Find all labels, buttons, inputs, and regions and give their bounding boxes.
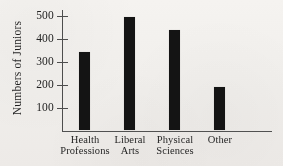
bar-other [214,87,225,131]
y-axis-line [62,10,63,131]
bar-chart-screenshot: Numbers of Juniors 500 400 300 200 100 [0,0,283,166]
x-category-label-line1: Physical [147,134,203,145]
y-tick-mark-300 [57,62,68,63]
y-tick-mark-100 [57,108,68,109]
y-tick-mark-500 [57,16,68,17]
y-tick-label-200: 200 [26,79,54,91]
x-category-label-other: Other [196,134,244,145]
x-category-label-physical-sciences: Physical Sciences [147,134,203,157]
y-tick-label-500: 500 [26,10,54,22]
y-tick-mark-200 [57,85,68,86]
y-tick-label-300-wrap: 300 [26,56,54,68]
x-category-label-line2: Sciences [147,145,203,156]
y-tick-label-400-wrap: 400 [26,33,54,45]
x-axis-line [62,131,272,132]
chart-plot-area: Numbers of Juniors 500 400 300 200 100 [0,0,283,166]
y-tick-label-400: 400 [26,33,54,45]
bar-physical-sciences [169,30,180,130]
y-tick-mark-400 [57,39,68,40]
bar-health-professions [79,52,90,130]
bar-liberal-arts [124,17,135,131]
y-tick-label-500-wrap: 500 [26,10,54,22]
x-category-label-line1: Other [196,134,244,145]
y-tick-label-100: 100 [26,102,54,114]
y-tick-label-100-wrap: 100 [26,102,54,114]
y-axis-title: Numbers of Juniors [11,3,23,133]
y-tick-label-200-wrap: 200 [26,79,54,91]
y-tick-label-300: 300 [26,56,54,68]
